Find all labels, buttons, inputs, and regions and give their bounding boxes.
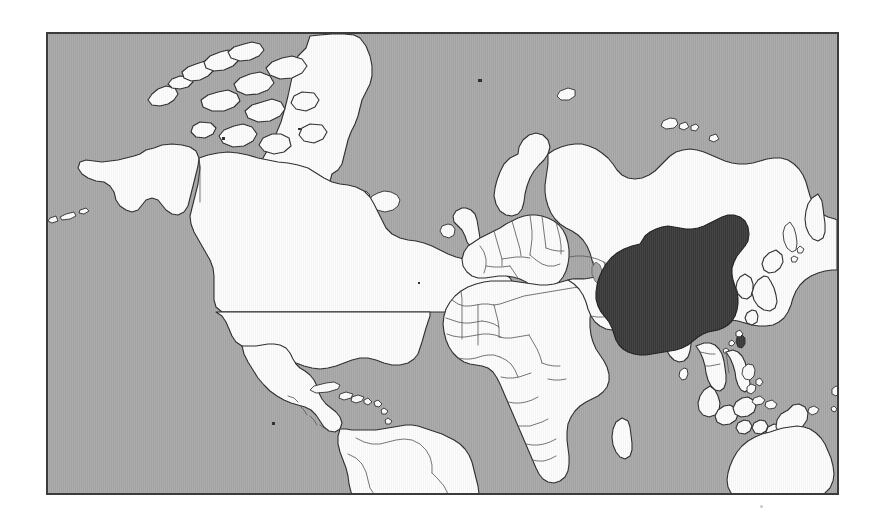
landmass-british-isles — [440, 208, 480, 247]
landmass-indonesia — [698, 386, 782, 438]
world-map-svg — [48, 34, 837, 493]
landmass-south-america — [338, 425, 479, 493]
landmass-aleutian-islands — [48, 208, 89, 223]
landmass-madagascar — [612, 418, 632, 459]
landmass-australia — [727, 426, 834, 493]
highlight-country-name: China — [0, 0, 1, 1]
landmass-sri-lanka — [679, 368, 688, 380]
landmass-canadian-arctic — [148, 42, 327, 154]
landmass-scandinavia — [494, 133, 550, 216]
scan-speck-artifact — [760, 505, 763, 508]
figure-caption — [0, 0, 1, 1]
figure-root: World map with one country highlighted — [0, 0, 883, 522]
landmass-arctic-islands — [557, 88, 719, 142]
figure-title: World map with one country highlighted — [0, 21, 1, 22]
landmass-alaska — [78, 144, 199, 215]
map-frame — [46, 32, 839, 495]
landmass-pacific-islands — [831, 386, 837, 412]
